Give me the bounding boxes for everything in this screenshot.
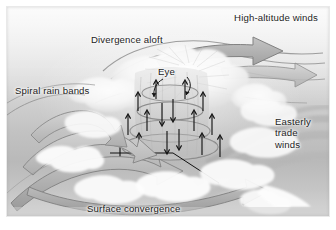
- label-surface-convergence: Surface convergence: [87, 203, 181, 214]
- label-easterly-trade-winds: Easterly trade winds: [275, 116, 321, 150]
- diagram-artwork: [7, 7, 329, 216]
- label-eye: Eye: [158, 66, 175, 77]
- hurricane-structure-figure: High-altitude winds Divergence aloft Spi…: [0, 0, 336, 230]
- label-high-altitude-winds: High-altitude winds: [234, 12, 318, 23]
- label-spiral-rain-bands: Spiral rain bands: [15, 85, 90, 96]
- figure-plate: High-altitude winds Divergence aloft Spi…: [7, 7, 329, 216]
- label-divergence-aloft: Divergence aloft: [91, 34, 163, 45]
